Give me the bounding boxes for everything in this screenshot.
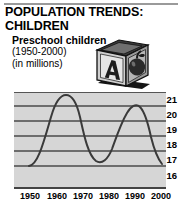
y-tick-20: 20 <box>166 110 177 120</box>
chart-canvas <box>14 92 166 187</box>
infographic-panel: POPULATION TRENDS: CHILDREN Preschool ch… <box>0 0 182 219</box>
alphabet-block-illustration <box>92 37 152 93</box>
x-axis-line <box>14 187 166 189</box>
x-tick-2000: 2000 <box>151 191 171 201</box>
y-tick-19: 19 <box>166 125 177 135</box>
y-tick-16: 16 <box>166 171 177 181</box>
chart-plot-area <box>14 92 166 187</box>
x-tick-1980: 1980 <box>99 191 119 201</box>
x-axis-labels: 1950 1960 1970 1980 1990 2000 <box>14 190 166 204</box>
x-tick-1960: 1960 <box>47 191 67 201</box>
x-tick-1990: 1990 <box>125 191 145 201</box>
x-tick-1970: 1970 <box>73 191 93 201</box>
page-title: POPULATION TRENDS: CHILDREN <box>5 6 145 33</box>
y-axis-labels: 21 20 19 18 17 16 <box>155 92 179 187</box>
y-tick-17: 17 <box>166 155 177 165</box>
x-tick-1950: 1950 <box>20 191 40 201</box>
y-tick-21: 21 <box>166 95 177 105</box>
y-tick-18: 18 <box>166 140 177 150</box>
